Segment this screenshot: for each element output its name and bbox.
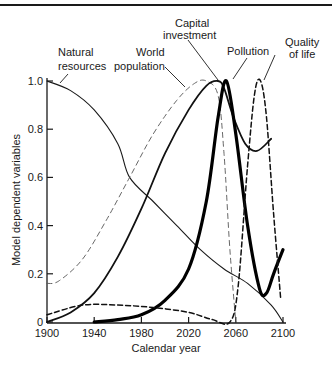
series-pollution [94, 81, 283, 322]
x-tick-label: 1980 [129, 327, 153, 339]
label-quality-of-life-line1: Quality [285, 36, 320, 48]
x-tick-label: 2060 [224, 327, 248, 339]
label-capital-investment-line2: investment [163, 29, 216, 41]
series-natural-resources [47, 81, 283, 322]
y-tick-label: 0.6 [28, 171, 43, 183]
x-tick-label: 1940 [82, 327, 106, 339]
label-quality-of-life-line2: of life [289, 48, 315, 60]
x-tick-label: 2100 [271, 327, 295, 339]
label-pollution: Pollution [227, 45, 269, 57]
y-axis-title: Model dependent variables [10, 133, 22, 266]
x-tick-label: 1900 [35, 327, 59, 339]
y-tick-label: 0.2 [28, 268, 43, 280]
y-ticks: 00.20.40.60.81.0 [28, 75, 53, 328]
label-natural-resources-line2: resources [58, 60, 107, 72]
x-tick-label: 2020 [176, 327, 200, 339]
label-capital-investment-line1: Capital [175, 17, 209, 29]
series-lines [47, 79, 283, 324]
y-tick-label: 1.0 [28, 75, 43, 87]
label-world-population-line1: World [136, 46, 165, 58]
y-tick-label: 0.4 [28, 220, 43, 232]
axes: 00.20.40.60.81.0 19001940198020202060210… [28, 75, 296, 339]
x-axis-title: Calendar year [131, 342, 200, 354]
chart: 00.20.40.60.81.0 19001940198020202060210… [0, 0, 332, 367]
label-world-population-line2: population [114, 60, 165, 72]
x-ticks: 190019401980202020602100 [35, 317, 295, 339]
y-tick-label: 0.8 [28, 123, 43, 135]
label-natural-resources-line1: Natural [58, 46, 93, 58]
